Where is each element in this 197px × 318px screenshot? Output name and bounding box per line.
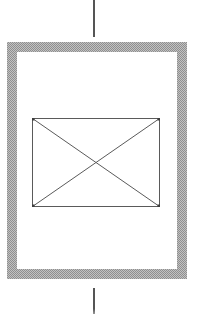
top-lead-line <box>93 0 95 37</box>
bottom-lead-line <box>93 288 95 314</box>
corner-dot-top-right <box>158 118 161 121</box>
corner-dot-bottom-left <box>32 205 35 208</box>
placeholder-box-with-x-icon <box>32 118 160 207</box>
schematic-diagram <box>0 0 197 318</box>
corner-dot-top-left <box>32 118 35 121</box>
corner-dot-bottom-right <box>158 205 161 208</box>
